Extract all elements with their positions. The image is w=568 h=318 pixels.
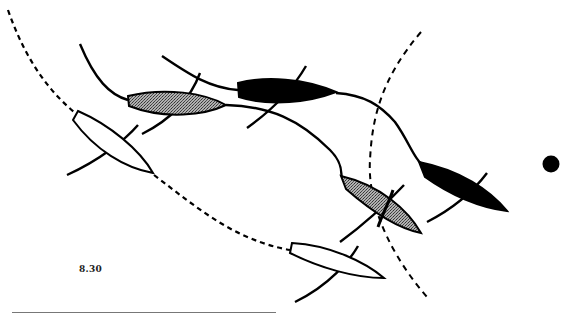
mark-buoy-icon: [543, 156, 560, 173]
caption-rule: [12, 312, 276, 313]
dashed-course-right: [370, 32, 427, 297]
boat-black-lower: [419, 162, 507, 211]
boat-white-upper-left: [73, 111, 153, 173]
dashed-course-upper-left: [8, 10, 74, 112]
boat-black-upper: [238, 79, 336, 102]
wake-track-boat-a: [80, 44, 128, 100]
sailing-diagram: 8.30: [0, 0, 568, 318]
wake-track-boat-b-mid: [336, 93, 421, 163]
boat-grey-upper: [128, 92, 226, 115]
figure-label: 8.30: [79, 264, 102, 274]
dashed-course-lower: [154, 175, 290, 250]
boat-grey-lower: [341, 176, 421, 233]
wake-track-boat-a-mid: [226, 105, 342, 177]
